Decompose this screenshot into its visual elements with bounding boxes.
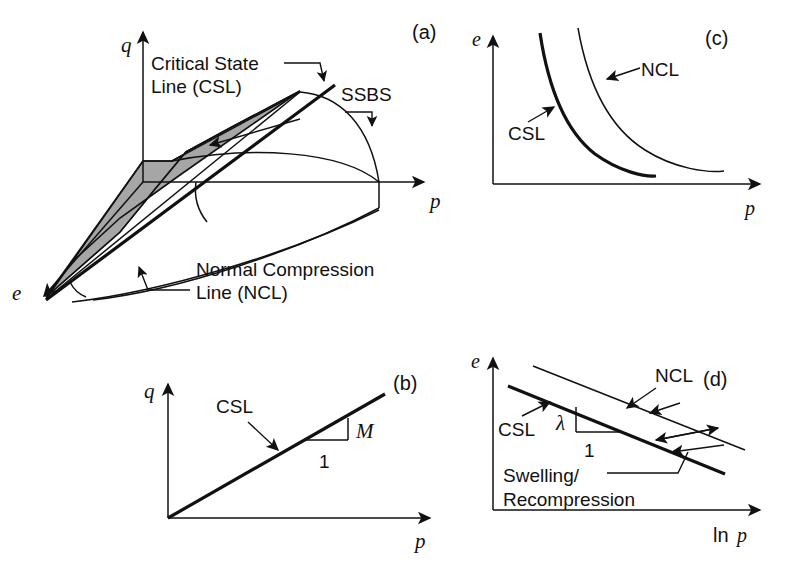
panel-tag-c: (c) [705, 27, 728, 49]
ncl-label-d: NCL [655, 365, 693, 386]
run-label-b: 1 [319, 451, 330, 472]
axis-label-p-a: p [428, 189, 441, 213]
panel-tag-b: (b) [393, 372, 417, 394]
panel-d: e ln p λ 1 CSL NCL Swelling/ [460, 340, 785, 576]
axis-label-p-c: p [743, 197, 755, 220]
panel-b: q p M 1 CSL (b) [100, 340, 460, 576]
csl-label-a-line2: Line (CSL) [151, 76, 242, 97]
ncl-leader-c [607, 68, 640, 79]
axis-label-q-a: q [121, 33, 132, 57]
axis-label-ln-d: ln [713, 524, 729, 546]
axis-label-e-d: e [471, 350, 480, 372]
ncl-label-c: NCL [641, 59, 679, 80]
ncl-leader-d [627, 388, 656, 408]
csl-leader-c [528, 107, 554, 122]
panel-tag-a: (a) [412, 21, 436, 43]
csl-label-a-line1: Critical State [151, 53, 259, 74]
csl-label-d: CSL [498, 419, 535, 440]
axis-label-e-c: e [472, 28, 481, 50]
panel-tag-d: (d) [703, 368, 727, 390]
slope-label-m-b: M [355, 419, 375, 443]
csl-leader-a [284, 63, 324, 81]
axis-label-p-b: p [413, 529, 426, 553]
ncl-label-a-line2: Line (NCL) [196, 282, 288, 303]
csl-leader-b [248, 422, 278, 450]
csl-leader-d [522, 402, 550, 416]
axis-label-q-b: q [144, 379, 155, 403]
ncl-label-a-line1: Normal Compression [196, 259, 374, 280]
axis-label-e-a: e [12, 281, 21, 305]
csl-curve-c [540, 33, 656, 176]
lambda-label-d: λ [555, 411, 565, 435]
csl-line-b [168, 394, 385, 518]
panel-c: e p CSL NCL (c) [460, 0, 785, 250]
csl-label-c: CSL [508, 123, 545, 144]
csl-label-b: CSL [216, 396, 253, 417]
ssbs-label-a: SSBS [341, 84, 392, 105]
panel-a: q p e [0, 0, 460, 330]
figure-root: q p e [0, 0, 785, 576]
run-label-d: 1 [584, 440, 595, 461]
swelling-label-d-line2: Recompression [503, 489, 635, 510]
swelling-label-d-line1: Swelling/ [503, 465, 580, 486]
axis-label-p-d: p [735, 524, 747, 547]
ncl-curve-c [578, 28, 724, 171]
